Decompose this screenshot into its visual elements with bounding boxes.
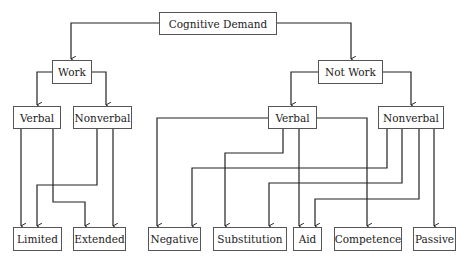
edge-nverbal-to-negative [157, 118, 268, 226]
edge-work-to-verbal [37, 72, 52, 105]
node-work-verbal: Verbal [13, 106, 61, 129]
edge-work-to-nonverbal [92, 72, 106, 105]
node-work: Work [52, 60, 92, 84]
node-notwork-verbal: Verbal [268, 106, 317, 129]
edge-nnonverbal-to-substitution [269, 128, 402, 226]
node-aid: Aid [293, 227, 322, 251]
connector-lines [0, 0, 469, 261]
edge-nnonverbal-to-negative [192, 128, 387, 226]
node-competence: Competence [334, 227, 402, 251]
edge-notwork-to-verbal [291, 72, 318, 105]
node-notwork-nonverbal: Nonverbal [378, 106, 444, 129]
edge-wnonverbal-to-limited [37, 128, 97, 226]
node-work-nonverbal: Nonverbal [73, 106, 132, 129]
node-negative: Negative [148, 227, 201, 251]
node-substitution: Substitution [213, 227, 287, 251]
edge-notwork-to-nonverbal [383, 72, 411, 105]
node-not-work: Not Work [318, 60, 383, 84]
node-passive: Passive [413, 227, 456, 251]
edge-nverbal-to-substitution [225, 128, 283, 226]
node-cognitive-demand: Cognitive Demand [159, 12, 277, 35]
node-limited: Limited [13, 227, 62, 251]
edge-cognitive-to-notwork [276, 23, 351, 59]
edge-wverbal-to-extended [53, 128, 85, 226]
edge-nverbal-to-competence [317, 118, 367, 226]
node-extended: Extended [73, 227, 126, 251]
edge-cognitive-to-work [71, 23, 160, 59]
